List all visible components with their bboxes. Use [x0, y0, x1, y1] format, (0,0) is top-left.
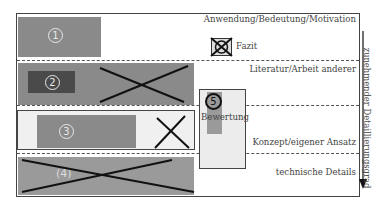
- fazit-label: Fazit: [236, 41, 257, 51]
- level-3-box: 3: [37, 115, 136, 148]
- level-3-cross-icon: [155, 114, 189, 148]
- level-3-label: Konzept/eigener Ansatz: [253, 137, 357, 147]
- bewertung-panel: 5 Bewertung: [199, 89, 246, 169]
- level-3-number: 3: [59, 123, 74, 139]
- level-4-label: technische Details: [276, 167, 356, 177]
- level-2-number: 2: [45, 74, 60, 90]
- detail-axis-label: zunehmender Detaillierungsgrad: [362, 48, 372, 189]
- bewertung-label: Bewertung: [201, 112, 249, 122]
- level-1-box: 1: [18, 17, 101, 57]
- fazit-cross-icon: [211, 38, 232, 56]
- separator-1: [17, 60, 359, 61]
- level-4-cross-icon: [22, 158, 194, 194]
- level-1-label: Anwendung/Bedeutung/Motivation: [204, 14, 356, 24]
- separator-3: [17, 153, 359, 154]
- level-1-number: 1: [48, 27, 63, 43]
- level-2-inner-box: 2: [28, 71, 75, 93]
- separator-2: [17, 105, 359, 106]
- bewertung-number: 5: [205, 93, 222, 110]
- level-2-label: Literatur/Arbeit anderer: [249, 64, 356, 74]
- level-2-cross-icon: [100, 66, 188, 104]
